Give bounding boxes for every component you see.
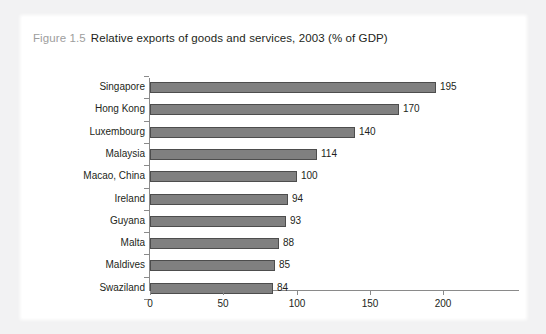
bar-value-label: 170 bbox=[403, 102, 420, 116]
bar bbox=[150, 171, 297, 182]
category-label: Hong Kong bbox=[5, 102, 145, 116]
category-label-wrap: Guyana bbox=[4, 216, 145, 227]
category-label: Luxembourg bbox=[5, 125, 145, 139]
x-axis-tick bbox=[223, 291, 224, 295]
bar-row: 93 bbox=[150, 216, 286, 227]
bar-row: 140 bbox=[150, 127, 355, 138]
category-label: Maldives bbox=[5, 258, 145, 272]
bar-row: 195 bbox=[150, 82, 436, 93]
category-label: Malaysia bbox=[5, 147, 145, 161]
bar-value-label: 100 bbox=[301, 169, 318, 183]
x-axis-tick-label: 0 bbox=[147, 297, 153, 310]
category-label-wrap: Luxembourg bbox=[4, 127, 145, 138]
x-axis-tick bbox=[297, 291, 298, 295]
bar-value-label: 94 bbox=[292, 192, 303, 206]
y-axis-tick bbox=[144, 165, 149, 166]
category-label-wrap: Ireland bbox=[4, 194, 145, 205]
x-axis-tick-label: 50 bbox=[217, 297, 228, 310]
bar-value-label: 85 bbox=[279, 258, 290, 272]
bar-row: 85 bbox=[150, 260, 275, 271]
bar-row: 114 bbox=[150, 149, 317, 160]
category-label-wrap: Swaziland bbox=[4, 283, 145, 294]
bar-row: 94 bbox=[150, 194, 288, 205]
y-axis-tick bbox=[144, 188, 149, 189]
x-axis-tick-label: 200 bbox=[435, 297, 452, 310]
bar bbox=[150, 82, 436, 93]
bar-row: 100 bbox=[150, 171, 297, 182]
category-label-wrap: Malaysia bbox=[4, 149, 145, 160]
y-axis-tick bbox=[144, 143, 149, 144]
category-label-wrap: Macao, China bbox=[4, 171, 145, 182]
x-axis-tick bbox=[370, 291, 371, 295]
y-axis-tick bbox=[144, 277, 149, 278]
bar bbox=[150, 149, 317, 160]
category-label-wrap: Singapore bbox=[4, 82, 145, 93]
category-label: Singapore bbox=[5, 80, 145, 94]
bar bbox=[150, 104, 399, 115]
category-label: Swaziland bbox=[5, 281, 145, 295]
category-label: Malta bbox=[5, 236, 145, 250]
bar-value-label: 84 bbox=[277, 281, 288, 295]
bar-value-label: 140 bbox=[359, 125, 376, 139]
category-label: Macao, China bbox=[5, 169, 145, 183]
bar bbox=[150, 127, 355, 138]
x-axis-tick-label: 150 bbox=[362, 297, 379, 310]
x-axis-tick bbox=[443, 291, 444, 295]
y-axis-tick bbox=[144, 98, 149, 99]
bar-value-label: 88 bbox=[283, 236, 294, 250]
bar bbox=[150, 194, 288, 205]
x-axis-tick-label: 100 bbox=[289, 297, 306, 310]
category-label: Guyana bbox=[5, 214, 145, 228]
bar bbox=[150, 283, 273, 294]
category-label-wrap: Hong Kong bbox=[4, 104, 145, 115]
x-axis-tick bbox=[150, 291, 151, 295]
bar bbox=[150, 238, 279, 249]
bar-value-label: 114 bbox=[321, 147, 337, 161]
y-axis-tick bbox=[144, 210, 149, 211]
category-label: Ireland bbox=[5, 192, 145, 206]
bar bbox=[150, 260, 275, 271]
bar-row: 170 bbox=[150, 104, 399, 115]
y-axis-tick bbox=[144, 232, 149, 233]
figure-container: Figure 1.5Relative exports of goods and … bbox=[0, 0, 546, 334]
bar-row: 84 bbox=[150, 283, 273, 294]
bar-value-label: 93 bbox=[290, 214, 301, 228]
bar bbox=[150, 216, 286, 227]
y-axis-tick bbox=[144, 121, 149, 122]
category-label-wrap: Maldives bbox=[4, 260, 145, 271]
category-label-wrap: Malta bbox=[4, 238, 145, 249]
y-axis-tick bbox=[144, 76, 149, 77]
bar-row: 88 bbox=[150, 238, 279, 249]
y-axis-tick bbox=[144, 254, 149, 255]
bar-value-label: 195 bbox=[440, 80, 457, 94]
bar-chart-plot: 195Singapore170Hong Kong140Luxembourg114… bbox=[0, 0, 546, 334]
